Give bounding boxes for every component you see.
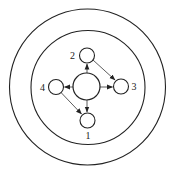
node-2: 2 (70, 48, 95, 63)
node-circle (80, 113, 95, 128)
node-circle (49, 80, 64, 95)
node-3: 3 (114, 79, 137, 94)
concentric-node-diagram: 1234 (0, 0, 173, 181)
node-label: 1 (86, 130, 91, 141)
node-circle (80, 48, 95, 63)
node-label: 4 (40, 82, 45, 93)
node-1: 1 (80, 113, 95, 141)
node-4: 4 (40, 80, 64, 95)
node-label: 2 (70, 50, 75, 61)
node-circle (114, 79, 129, 94)
center-hub (73, 73, 100, 100)
diagram-container: 1234 (0, 0, 173, 181)
node-label: 3 (132, 81, 137, 92)
